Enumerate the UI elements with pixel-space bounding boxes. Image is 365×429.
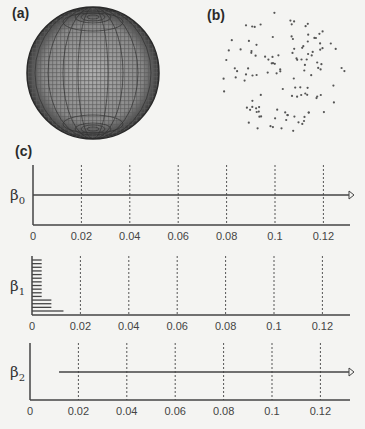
betti-label-2: β2 [10, 363, 25, 383]
barcode-panel-β1: 00.020.040.060.080.10.12β1 [10, 256, 350, 332]
x-tick-label: 0.04 [116, 405, 137, 417]
x-tick-label: 0.06 [167, 230, 188, 242]
barcode-panel-β0: 00.020.040.060.080.10.12β0 [10, 165, 354, 242]
arrow-icon [349, 368, 354, 376]
betti-label-1: β1 [10, 277, 25, 297]
x-tick-label: 0.02 [68, 405, 89, 417]
x-tick-label: 0 [27, 405, 33, 417]
x-tick-label: 0.02 [70, 320, 91, 332]
x-tick-label: 0.04 [119, 230, 140, 242]
x-tick-label: 0.02 [71, 230, 92, 242]
x-tick-label: 0 [30, 230, 36, 242]
barcode-chart: 00.020.040.060.080.10.12β000.020.040.060… [0, 0, 365, 429]
x-tick-label: 0.06 [164, 405, 185, 417]
x-tick-label: 0.1 [266, 320, 281, 332]
x-tick-label: 0.06 [166, 320, 187, 332]
x-tick-label: 0.08 [213, 405, 234, 417]
x-tick-label: 0.1 [264, 405, 279, 417]
x-tick-label: 0.08 [216, 230, 237, 242]
arrow-icon [349, 191, 354, 199]
x-tick-label: 0.12 [313, 230, 334, 242]
x-tick-label: 0 [29, 320, 35, 332]
barcode-panel-β2: 00.020.040.060.080.10.12β2 [10, 343, 354, 417]
x-tick-label: 0.1 [267, 230, 282, 242]
x-tick-label: 0.12 [312, 320, 333, 332]
betti-label-0: β0 [10, 186, 25, 206]
x-tick-label: 0.08 [215, 320, 236, 332]
x-tick-label: 0.12 [310, 405, 331, 417]
x-tick-label: 0.04 [118, 320, 139, 332]
